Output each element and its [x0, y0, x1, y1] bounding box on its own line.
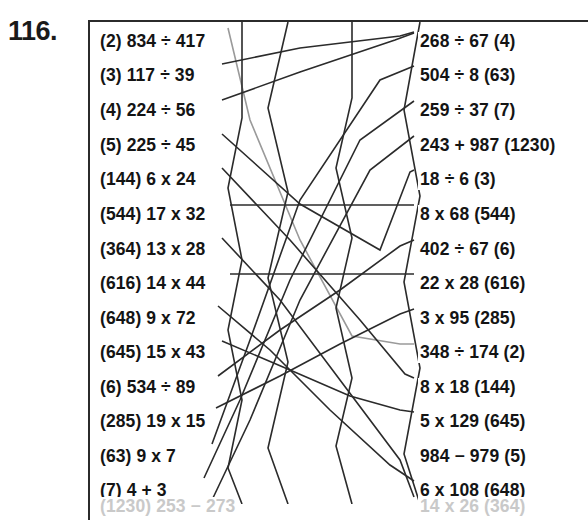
left-expression-item[interactable]: (5) 225 ÷ 45 — [100, 136, 197, 156]
right-expression-item[interactable]: 14 x 26 (364) — [418, 497, 525, 517]
right-expression-item[interactable]: 402 ÷ 67 (6) — [418, 240, 515, 260]
left-expression-item[interactable]: (544) 17 x 32 — [100, 205, 207, 225]
right-expression-item[interactable]: 243 + 987 (1230) — [418, 136, 555, 156]
left-expression-item[interactable]: (144) 6 x 24 — [100, 170, 198, 190]
right-expression-item[interactable]: 8 x 68 (544) — [418, 205, 516, 225]
left-expression-item[interactable]: (364) 13 x 28 — [100, 240, 207, 260]
right-expression-item[interactable]: 984 − 979 (5) — [418, 447, 526, 467]
matching-panel — [88, 20, 588, 520]
right-expression-item[interactable]: 5 x 129 (645) — [418, 412, 525, 432]
left-expression-item[interactable]: (3) 117 ÷ 39 — [100, 66, 196, 86]
left-expression-item[interactable]: (616) 14 x 44 — [100, 274, 207, 294]
right-expression-item[interactable]: 8 x 18 (144) — [418, 378, 516, 398]
right-expression-item[interactable]: 504 ÷ 8 (63) — [418, 66, 515, 86]
left-expression-item[interactable]: (648) 9 x 72 — [100, 309, 198, 329]
right-expression-item[interactable]: 18 ÷ 6 (3) — [418, 170, 496, 190]
exercise-number: 116. — [8, 18, 57, 45]
right-expression-item[interactable]: 259 ÷ 37 (7) — [418, 101, 515, 121]
left-expression-item[interactable]: (4) 224 ÷ 56 — [100, 101, 197, 121]
right-expression-item[interactable]: 22 x 28 (616) — [418, 274, 525, 294]
right-expression-item[interactable]: 268 ÷ 67 (4) — [418, 32, 515, 52]
right-expression-item[interactable]: 3 x 95 (285) — [418, 309, 516, 329]
left-expression-item[interactable]: (2) 834 ÷ 417 — [100, 32, 207, 52]
left-expression-item[interactable]: (285) 19 x 15 — [100, 412, 207, 432]
right-expression-item[interactable]: 348 ÷ 174 (2) — [418, 343, 525, 363]
left-expression-item[interactable]: (645) 15 x 43 — [100, 343, 207, 363]
left-expression-item[interactable]: (1230) 253 − 273 — [100, 497, 237, 517]
left-expression-item[interactable]: (6) 534 ÷ 89 — [100, 378, 197, 398]
left-expression-item[interactable]: (63) 9 x 7 — [100, 447, 178, 467]
